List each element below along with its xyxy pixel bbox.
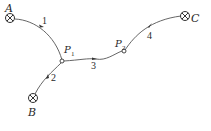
- junction-p1-label: P: [63, 44, 71, 55]
- node-c: C: [181, 12, 201, 26]
- node-b-label: B: [27, 106, 36, 119]
- edge-3-label: 3: [91, 60, 96, 71]
- edge-4-label: 4: [147, 30, 152, 41]
- edge-2: [35, 63, 61, 94]
- node-c-label: C: [191, 12, 200, 25]
- edge-4: [125, 16, 181, 50]
- edge-2-arrow-icon: [46, 74, 49, 79]
- edge-1: [15, 19, 62, 60]
- edge-2-label: 2: [51, 72, 56, 83]
- edge-1-label: 1: [42, 15, 47, 26]
- node-b: B: [27, 94, 38, 120]
- network-diagram: 1 2 3 4 A B C P 1 P 2: [0, 0, 211, 131]
- junction-p1-icon: [60, 59, 64, 63]
- junction-p2: P 2: [114, 38, 126, 53]
- junction-p2-label: P: [114, 38, 122, 49]
- node-a: A: [4, 2, 15, 23]
- node-a-label: A: [4, 2, 13, 15]
- junction-p2-subscript: 2: [122, 44, 126, 52]
- junction-p1-subscript: 1: [71, 50, 75, 58]
